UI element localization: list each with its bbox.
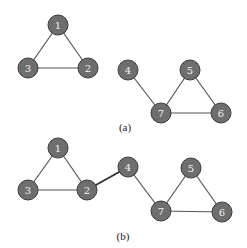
node-3: 3 [18, 180, 38, 200]
node-label: 6 [219, 207, 225, 218]
node-label: 5 [187, 65, 193, 76]
node-4: 4 [118, 60, 138, 80]
caption-b: (b) [117, 230, 130, 243]
graph-diagram: 1234567 (a) 1234567 (b) [0, 0, 247, 248]
nodes-a: 1234567 [18, 15, 231, 123]
node-6: 6 [211, 103, 231, 123]
node-5: 5 [181, 158, 201, 178]
node-label: 4 [125, 162, 131, 173]
node-label: 4 [125, 65, 131, 76]
node-2: 2 [78, 58, 98, 78]
node-label: 5 [188, 163, 194, 174]
node-3: 3 [18, 58, 38, 78]
node-6: 6 [212, 202, 232, 222]
node-label: 3 [25, 185, 31, 196]
node-label: 7 [158, 108, 164, 119]
node-label: 3 [25, 63, 31, 74]
subfigure-b: 1234567 (b) [18, 138, 232, 243]
node-label: 2 [85, 63, 91, 74]
node-7: 7 [151, 103, 171, 123]
node-label: 2 [84, 185, 90, 196]
node-4: 4 [118, 157, 138, 177]
node-1: 1 [48, 15, 68, 35]
node-5: 5 [180, 60, 200, 80]
node-label: 6 [218, 108, 224, 119]
node-2: 2 [77, 180, 97, 200]
caption-a: (a) [119, 121, 132, 134]
subfigure-a: 1234567 (a) [18, 15, 231, 134]
node-label: 1 [55, 20, 61, 31]
node-label: 1 [55, 143, 61, 154]
node-label: 7 [158, 206, 164, 217]
node-1: 1 [48, 138, 68, 158]
node-7: 7 [151, 201, 171, 221]
